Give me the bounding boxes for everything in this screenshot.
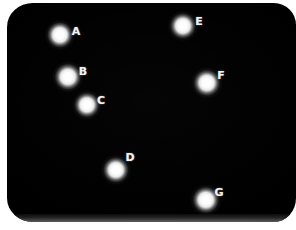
point-label-d: D <box>125 152 134 163</box>
light-point-e <box>167 10 198 41</box>
point-label-b: B <box>79 66 87 77</box>
dark-panel: ABCDEFG <box>7 3 296 222</box>
point-label-f: F <box>217 70 225 81</box>
point-label-e: E <box>195 16 203 27</box>
point-label-a: A <box>72 26 81 37</box>
point-label-c: C <box>97 95 105 106</box>
bottom-edge-strip <box>7 214 296 222</box>
point-label-g: G <box>214 187 223 198</box>
scene-canvas: ABCDEFG <box>0 0 296 230</box>
